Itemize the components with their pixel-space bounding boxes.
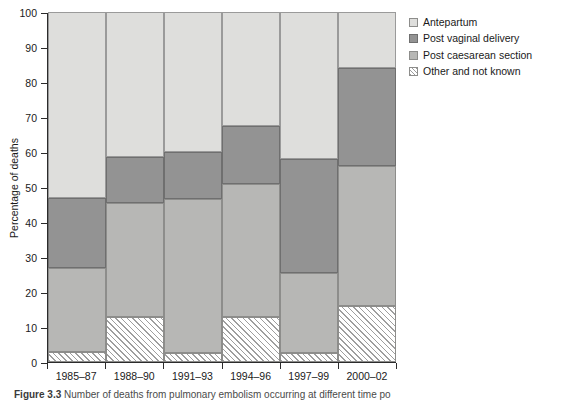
x-axis-tick bbox=[105, 363, 106, 369]
y-axis-tick-label: 100 bbox=[0, 8, 37, 19]
x-axis-tick bbox=[396, 363, 397, 369]
bar-segment-other[interactable] bbox=[164, 353, 222, 362]
x-axis-tick-label: 1991–93 bbox=[163, 370, 221, 382]
bar-segment-ante[interactable] bbox=[280, 12, 338, 159]
y-axis-tick-label: 90 bbox=[0, 43, 37, 54]
legend-item-label: Antepartum bbox=[423, 17, 477, 28]
y-axis-tick-label: 0 bbox=[0, 358, 37, 369]
bar-segment-other[interactable] bbox=[222, 317, 280, 363]
y-axis-tick-label: 40 bbox=[0, 218, 37, 229]
x-axis-labels: 1985–871988–901991–931994–961997–992000–… bbox=[47, 370, 396, 382]
figure-caption-label: Figure 3.3 bbox=[14, 389, 61, 400]
bar-segment-other[interactable] bbox=[338, 306, 396, 362]
figure-caption: Figure 3.3 Number of deaths from pulmona… bbox=[14, 389, 559, 401]
y-axis-tick-label: 60 bbox=[0, 148, 37, 159]
x-axis-tick-label: 1994–96 bbox=[222, 370, 280, 382]
bar-group bbox=[48, 13, 396, 362]
y-axis-tick-label: 70 bbox=[0, 113, 37, 124]
bar-segment-other[interactable] bbox=[48, 352, 106, 363]
legend-item-label: Post caesarean section bbox=[423, 50, 532, 61]
legend-item-pvd[interactable]: Post vaginal delivery bbox=[409, 33, 561, 45]
bar-segment-pvd[interactable] bbox=[338, 68, 396, 166]
bar-segment-pvd[interactable] bbox=[222, 126, 280, 184]
chart-legend: AntepartumPost vaginal deliveryPost caes… bbox=[409, 16, 561, 82]
bar-segment-pvd[interactable] bbox=[280, 159, 338, 273]
bar-segment-pcs[interactable] bbox=[280, 273, 338, 354]
bar-segment-pcs[interactable] bbox=[106, 203, 164, 317]
bar-segment-pvd[interactable] bbox=[164, 152, 222, 199]
plot-area bbox=[47, 13, 396, 363]
legend-swatch-icon bbox=[409, 34, 418, 43]
x-axis-tick bbox=[338, 363, 339, 369]
bar-segment-other[interactable] bbox=[106, 317, 164, 363]
bar-segment-ante[interactable] bbox=[222, 12, 280, 126]
x-axis-tick bbox=[222, 363, 223, 369]
legend-swatch-icon bbox=[409, 18, 418, 27]
x-axis-tick bbox=[163, 363, 164, 369]
x-axis-tick bbox=[280, 363, 281, 369]
y-axis-tick-label: 30 bbox=[0, 253, 37, 264]
bar-segment-pvd[interactable] bbox=[48, 198, 106, 268]
figure-container: Percentage of deaths 0102030405060708090… bbox=[0, 0, 563, 401]
bar-column[interactable] bbox=[164, 13, 222, 362]
bar-segment-pcs[interactable] bbox=[48, 268, 106, 352]
legend-item-ante[interactable]: Antepartum bbox=[409, 16, 561, 28]
x-axis-ticks bbox=[47, 363, 396, 369]
bar-column[interactable] bbox=[338, 13, 396, 362]
legend-item-pcs[interactable]: Post caesarean section bbox=[409, 49, 561, 61]
bar-column[interactable] bbox=[48, 13, 106, 362]
legend-item-label: Post vaginal delivery bbox=[423, 33, 519, 44]
x-axis-tick-label: 1988–90 bbox=[105, 370, 163, 382]
y-axis-tick-label: 20 bbox=[0, 288, 37, 299]
bar-segment-other[interactable] bbox=[280, 353, 338, 362]
bar-segment-pcs[interactable] bbox=[338, 166, 396, 306]
bar-segment-pcs[interactable] bbox=[164, 199, 222, 353]
bar-segment-ante[interactable] bbox=[106, 12, 164, 157]
bar-segment-pcs[interactable] bbox=[222, 184, 280, 317]
bar-segment-ante[interactable] bbox=[48, 12, 106, 198]
legend-swatch-icon bbox=[409, 51, 418, 60]
figure-caption-text: Number of deaths from pulmonary embolism… bbox=[64, 389, 391, 400]
x-axis-tick bbox=[47, 363, 48, 369]
bar-column[interactable] bbox=[106, 13, 164, 362]
legend-item-label: Other and not known bbox=[423, 66, 520, 77]
x-axis-tick-label: 1997–99 bbox=[280, 370, 338, 382]
bar-column[interactable] bbox=[222, 13, 280, 362]
bar-segment-ante[interactable] bbox=[338, 12, 396, 68]
x-axis-tick-label: 1985–87 bbox=[47, 370, 105, 382]
y-axis-tick-label: 10 bbox=[0, 323, 37, 334]
bar-column[interactable] bbox=[280, 13, 338, 362]
y-axis-tick-label: 50 bbox=[0, 183, 37, 194]
y-axis-tick-label: 80 bbox=[0, 78, 37, 89]
bar-segment-ante[interactable] bbox=[164, 12, 222, 152]
x-axis-tick-label: 2000–02 bbox=[338, 370, 396, 382]
legend-item-other[interactable]: Other and not known bbox=[409, 66, 561, 78]
bar-segment-pvd[interactable] bbox=[106, 157, 164, 203]
legend-swatch-icon bbox=[409, 67, 418, 76]
